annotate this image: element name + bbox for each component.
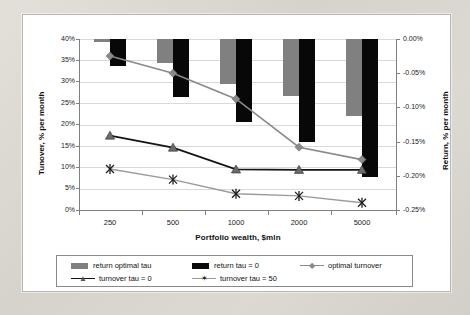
y-left-tick-label: 25% <box>47 99 75 107</box>
y-left-tick-label: 5% <box>47 184 75 192</box>
chart-legend: return optimal tau return tau = 0 ◆ opti… <box>56 255 413 287</box>
y-left-tick-label: 0% <box>47 206 75 214</box>
y-axis-left-line <box>79 39 80 211</box>
y-left-tickmark <box>76 39 79 40</box>
x-tick-label-2000: 2000 <box>269 218 329 227</box>
markers-optimal-turnover <box>106 52 366 164</box>
legend-label: return optimal tau <box>93 261 151 270</box>
y-left-tickmark <box>76 167 79 168</box>
x-tick-label-250: 250 <box>80 218 140 227</box>
x-tickmark <box>268 211 269 215</box>
y-right-tickmark <box>397 73 400 74</box>
y-left-tick-label: 35% <box>47 56 75 64</box>
legend-swatch-line-diamond-icon: ◆ <box>300 261 324 270</box>
legend-label: turnover tau = 0 <box>99 274 152 283</box>
y-right-tick-label: -0.10% <box>403 103 443 111</box>
legend-row-1: return optimal tau return tau = 0 ◆ opti… <box>57 259 412 272</box>
y-right-tick-label: -0.25% <box>403 206 443 214</box>
y-left-tick-label: 15% <box>47 142 75 150</box>
y-left-tickmark <box>76 60 79 61</box>
legend-row-2: ▲ turnover tau = 0 ✶ turnover tau = 50 <box>57 272 412 285</box>
legend-item-turnover-tau-50[interactable]: ✶ turnover tau = 50 <box>192 272 277 285</box>
x-tick-label-5000: 5000 <box>332 218 392 227</box>
legend-swatch-line-star-icon: ✶ <box>192 274 216 283</box>
legend-label: return tau = 0 <box>214 261 259 270</box>
chart-card: 40% 35% 30% 25% 20% 15% 10% 5% 0% 0. <box>22 14 451 292</box>
legend-label: optimal turnover <box>328 261 382 270</box>
y-right-tick-label: -0.15% <box>403 138 443 146</box>
y-left-tick-label: 20% <box>47 120 75 128</box>
legend-item-turnover-tau-0[interactable]: ▲ turnover tau = 0 <box>71 272 152 285</box>
y-right-tickmark <box>397 176 400 177</box>
x-tickmark <box>331 211 332 215</box>
line-series-overlay <box>79 39 396 210</box>
x-tick-label-1000: 1000 <box>206 218 266 227</box>
x-axis-title: Portfolio wealth, $mln <box>79 233 397 242</box>
y-right-tick-label: 0.00% <box>403 35 443 43</box>
x-tickmark <box>79 211 80 215</box>
chart-plot-wrapper: 40% 35% 30% 25% 20% 15% 10% 5% 0% 0. <box>23 15 450 291</box>
y-left-tickmark <box>76 188 79 189</box>
y-right-tickmark <box>397 210 400 211</box>
legend-item-return-optimal-tau[interactable]: return optimal tau <box>71 259 151 272</box>
y-right-tick-label: -0.20% <box>403 172 443 180</box>
y-left-tick-label: 10% <box>47 163 75 171</box>
legend-label: turnover tau = 50 <box>220 274 277 283</box>
x-tickmark <box>205 211 206 215</box>
y-left-tickmark <box>76 146 79 147</box>
legend-item-return-tau-0[interactable]: return tau = 0 <box>192 259 259 272</box>
y-right-tickmark <box>397 39 400 40</box>
y-right-tick-label: -0.05% <box>403 69 443 77</box>
x-tickmark <box>396 211 397 215</box>
legend-swatch-box-icon <box>71 263 88 269</box>
y-left-tickmark <box>76 103 79 104</box>
y-left-tickmark <box>76 124 79 125</box>
y-left-tick-label: 30% <box>47 77 75 85</box>
x-tick-label-500: 500 <box>143 218 203 227</box>
legend-item-optimal-turnover[interactable]: ◆ optimal turnover <box>300 259 382 272</box>
y-axis-left-title: Tunover, % per month <box>37 92 46 175</box>
page-background: 40% 35% 30% 25% 20% 15% 10% 5% 0% 0. <box>0 0 470 315</box>
x-axis-line <box>79 210 397 211</box>
legend-swatch-box-icon <box>192 263 209 269</box>
y-left-tick-label: 40% <box>47 35 75 43</box>
line-optimal-turnover <box>110 56 362 160</box>
y-left-tickmark <box>76 81 79 82</box>
y-right-tickmark <box>397 107 400 108</box>
y-right-tickmark <box>397 142 400 143</box>
y-axis-right-line <box>396 39 397 211</box>
y-axis-right-title: Return, % per month <box>441 91 450 170</box>
x-tickmark <box>142 211 143 215</box>
legend-swatch-line-triangle-icon: ▲ <box>71 274 95 283</box>
